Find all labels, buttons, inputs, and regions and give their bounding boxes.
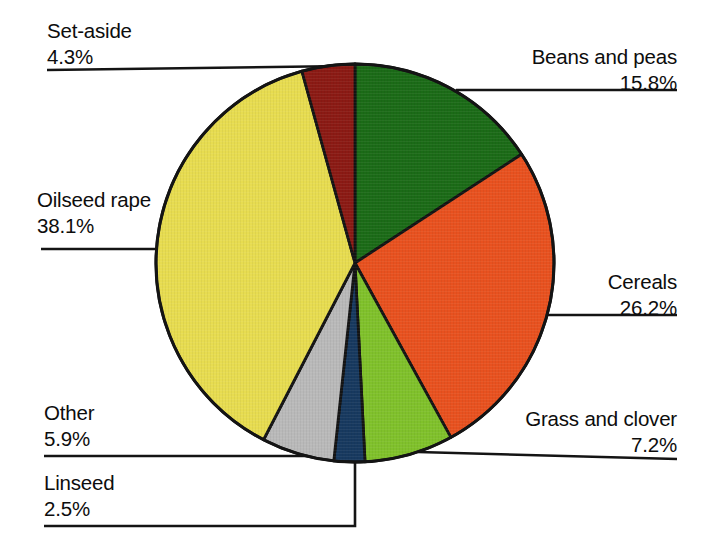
pie-chart-page: Set-aside 4.3% Oilseed rape 38.1% Other … (0, 0, 709, 559)
pie-label-linseed: Linseed 2.5% (44, 470, 114, 522)
pie-label-oilseed-rape-name: Oilseed rape (37, 187, 151, 213)
pie-label-set-aside-value: 4.3% (47, 44, 132, 70)
pie-label-grass-and-clover-name: Grass and clover (525, 406, 677, 432)
pie-label-grass-and-clover-value: 7.2% (525, 432, 677, 458)
pie-label-beans-and-peas-value: 15.8% (532, 70, 677, 96)
pie-label-other-name: Other (44, 400, 94, 426)
pie-label-cereals-name: Cereals (608, 269, 677, 295)
pie-texture-overlay (156, 64, 554, 462)
pie-label-other: Other 5.9% (44, 400, 94, 452)
pie-label-linseed-value: 2.5% (44, 496, 114, 522)
pie-label-cereals: Cereals 26.2% (608, 269, 677, 321)
pie-label-set-aside-name: Set-aside (47, 18, 132, 44)
pie-label-oilseed-rape-value: 38.1% (37, 213, 151, 239)
pie-label-beans-and-peas: Beans and peas 15.8% (532, 44, 677, 96)
pie-label-cereals-value: 26.2% (608, 295, 677, 321)
pie-label-grass-and-clover: Grass and clover 7.2% (525, 406, 677, 458)
pie-label-set-aside: Set-aside 4.3% (47, 18, 132, 70)
pie-label-linseed-name: Linseed (44, 470, 114, 496)
pie-label-beans-and-peas-name: Beans and peas (532, 44, 677, 70)
pie-label-oilseed-rape: Oilseed rape 38.1% (37, 187, 151, 239)
pie-label-other-value: 5.9% (44, 426, 94, 452)
